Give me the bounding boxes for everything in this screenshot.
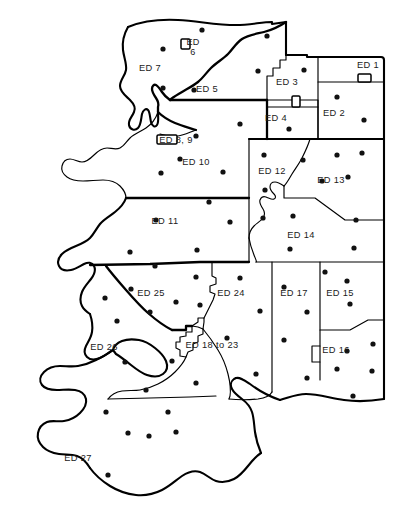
settlement-dot (173, 299, 178, 304)
settlement-dot (347, 301, 352, 306)
settlement-dot (334, 366, 339, 371)
district-label-ed-1: ED 1 (357, 60, 379, 70)
settlement-dot (253, 371, 258, 376)
settlement-dot (125, 430, 130, 435)
map-container: ED 1ED 2ED 3ED 4ED 5ED6ED 7ED 8, 9ED 10E… (0, 0, 396, 528)
settlement-dot (158, 170, 163, 175)
settlement-dot (114, 318, 119, 323)
district-label-ed-27: ED 27 (64, 453, 92, 463)
settlement-dot (102, 295, 107, 300)
district-label-ed-26: ED 26 (90, 342, 118, 352)
district-label-ed-25: ED 25 (137, 288, 165, 298)
settlement-dot (369, 368, 374, 373)
settlement-dot (143, 387, 148, 392)
district-label-ed-7: ED 7 (139, 63, 161, 73)
settlement-dot (173, 429, 178, 434)
settlement-dot (237, 275, 242, 280)
district-label-ed-12: ED 12 (258, 166, 286, 176)
settlement-dot (264, 33, 269, 38)
settlement-dot (334, 152, 339, 157)
district-label-ed-3: ED 3 (276, 77, 298, 87)
settlement-dot (344, 278, 349, 283)
settlement-dot (122, 359, 127, 364)
settlement-dot (304, 375, 309, 380)
settlement-dot (237, 121, 242, 126)
district-label-ed-8-9: ED 8, 9 (159, 135, 192, 145)
district-label-ed-17: ED 17 (280, 288, 308, 298)
settlement-dot (146, 433, 151, 438)
settlement-dot (351, 245, 356, 250)
district-label-ed-18-23: ED 18 to 23 (186, 340, 239, 350)
settlement-dot (287, 246, 292, 251)
district-label-ed-24: ED 24 (217, 288, 245, 298)
settlement-dot (206, 199, 211, 204)
settlement-dot (370, 341, 375, 346)
settlement-dot (359, 150, 364, 155)
district-label-ed-11: ED 11 (152, 216, 179, 226)
settlement-dot (103, 409, 108, 414)
settlement-dot (193, 274, 198, 279)
district-label-ed-2: ED 2 (323, 108, 345, 118)
district-label-ed-4: ED 4 (265, 113, 287, 123)
settlement-dot (304, 309, 309, 314)
settlement-dot (193, 133, 198, 138)
settlement-dot (194, 247, 199, 252)
settlement-dot (165, 409, 170, 414)
settlement-dot (160, 46, 165, 51)
settlement-dot (105, 472, 110, 477)
settlement-dot (227, 219, 232, 224)
settlement-dot (160, 85, 165, 90)
settlement-dot (193, 380, 198, 385)
settlement-dot (350, 393, 355, 398)
district-label-ed-16: ED 16 (322, 345, 350, 355)
settlement-dot (290, 213, 295, 218)
district-label-ed-15: ED 15 (326, 288, 354, 298)
enumeration-district-map: ED 1ED 2ED 3ED 4ED 5ED6ED 7ED 8, 9ED 10E… (0, 0, 396, 528)
settlement-dot (361, 117, 366, 122)
district-label-ed-5: ED 5 (196, 84, 218, 94)
settlement-dot (353, 217, 358, 222)
settlement-dot (169, 358, 174, 363)
district-label-ed-13: ED 13 (317, 175, 345, 185)
district-label-ed-10: ED 10 (182, 157, 210, 167)
settlement-dot (152, 263, 157, 268)
settlement-dot (300, 157, 305, 162)
settlement-dot (197, 302, 202, 307)
inset-box-ed-1 (358, 74, 371, 82)
settlement-dot (257, 308, 262, 313)
settlement-dot (255, 68, 260, 73)
settlement-dot (334, 94, 339, 99)
settlement-dot (199, 27, 204, 32)
settlement-dot (147, 309, 152, 314)
settlement-dot (127, 249, 132, 254)
settlement-dot (260, 215, 265, 220)
settlement-dot (345, 174, 350, 179)
settlement-dot (128, 286, 133, 291)
settlement-dot (286, 126, 291, 131)
settlement-dot (262, 187, 267, 192)
settlement-dot (322, 269, 327, 274)
settlement-dot (261, 152, 266, 157)
inset-box-ed-3 (292, 96, 300, 107)
settlement-dot (281, 337, 286, 342)
region-fills (22, 21, 384, 512)
settlement-dot (301, 67, 306, 72)
district-label-ed-14: ED 14 (287, 230, 315, 240)
settlement-dot (220, 169, 225, 174)
